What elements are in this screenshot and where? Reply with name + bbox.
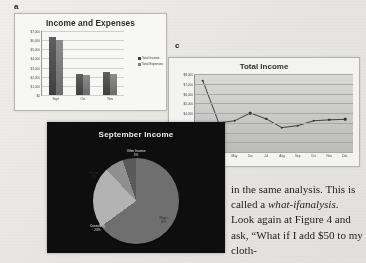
chart-a-ytick: $6,000 [31,39,40,43]
pie-label-wages: Wages 65% [159,217,169,225]
chart-a-bar [49,37,56,96]
pie-label-wages-pct: 65% [161,220,167,224]
chart-c-xtick: May [232,154,238,158]
chart-c-title: Total Income [169,62,359,71]
pie-label-interest-pct: 7% [92,175,96,179]
chart-a-bar [76,74,83,95]
chart-c-data-point [328,119,331,122]
chart-c-gridline: $4,000 [195,113,353,114]
figure-callout-c: c [175,41,179,50]
chart-c-gridline: $5,000 [195,103,353,104]
figure-b-pie-chart: September Income Other Income 5% Interes… [47,122,225,253]
chart-a-bar [56,40,63,95]
chart-c-data-point [281,126,284,129]
chart-c-xtick: Oct [311,154,316,158]
chart-a-ytick: $3,000 [31,67,40,71]
pie-graphic [93,158,179,244]
chart-a-legend-label: Total Expenses [142,62,163,66]
chart-a-legend-swatch [138,57,141,60]
chart-c-xtick: Aug [279,154,285,158]
chart-a-legend-label: Total Income [142,56,160,60]
chart-c-gridline: $8,000 [195,74,353,75]
chart-c-xtick: Dec [342,154,348,158]
chart-a-gridline: $0 [42,95,124,96]
chart-c-data-point [202,80,205,83]
chart-a-title: Income and Expenses [15,18,166,28]
chart-a-ytick: $0 [37,94,40,98]
pie-label-other-pct: 5% [134,153,138,157]
chart-a-bar [103,72,110,95]
pie-label-interest: Interest 7% [89,172,99,180]
figure-a-bar-chart: Income and Expenses $0$1,000$2,000$3,000… [14,13,167,111]
chart-c-gridline: $6,000 [195,94,353,95]
chart-c-ytick: $8,000 [184,73,193,77]
chart-c-data-point [344,118,347,121]
chart-a-bar-group: Sept [42,31,69,95]
chart-a-xtick: Nov [97,97,124,101]
chart-a-ytick: $2,000 [31,76,40,80]
pie-container [93,158,179,244]
chart-c-ytick: $6,000 [184,93,193,97]
chart-c-data-point [312,120,315,123]
chart-c-ytick: $5,000 [184,102,193,106]
chart-c-data-point [296,124,299,127]
chart-a-ytick: $7,000 [31,30,40,34]
chart-a-bar [110,74,117,95]
chart-c-xtick: Jul [264,154,268,158]
chart-c-gridline: $7,000 [195,84,353,85]
chart-a-plot-area: $0$1,000$2,000$3,000$4,000$5,000$6,000$7… [41,31,124,96]
chart-a-xtick: Sept [42,97,69,101]
chart-c-xtick: Sep [295,154,301,158]
chart-a-bar [83,75,90,95]
chart-a-bar-group: Oct [69,31,96,95]
chart-a-xtick: Oct [69,97,96,101]
chart-b-title: September Income [47,130,225,139]
chart-a-bar-group: Nov [97,31,124,95]
chart-c-data-point [249,112,252,115]
chart-a-legend-swatch [138,63,141,66]
chart-c-xtick: Jun [248,154,253,158]
chart-c-data-point [265,118,268,121]
body-line-1: in the same analysis. [231,183,323,195]
chart-a-ytick: $4,000 [31,57,40,61]
figure-callout-a: a [14,2,18,11]
body-line-3a-italic: analysis [299,198,335,210]
chart-a-ytick: $1,000 [31,85,40,89]
chart-c-ytick: $7,000 [184,83,193,87]
chart-c-ytick: $4,000 [184,112,193,116]
chart-c-data-point [233,120,236,123]
chart-a-legend: Total IncomeTotal Expenses [138,56,163,68]
pie-label-consulting: Consulting 23% [90,225,105,233]
chart-a-ytick: $5,000 [31,48,40,52]
pie-label-other-income: Other Income 5% [127,150,146,158]
chart-a-legend-item: Total Expenses [138,62,163,68]
chart-c-xtick: Nov [327,154,333,158]
pie-label-consulting-pct: 23% [94,228,100,232]
body-paragraph: in the same analysis. This is called a w… [231,182,363,258]
body-line-2b-italic: what-if [268,198,299,210]
